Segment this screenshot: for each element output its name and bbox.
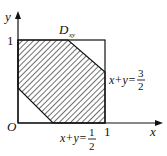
y-axis-arrow-icon [15, 11, 21, 19]
x-tick-one: 1 [104, 124, 111, 139]
diagram-canvas: y x O 1 1 D xy x+y= 3 2 x+y= 1 2 [0, 0, 167, 156]
x-axis-arrow-icon [155, 120, 163, 126]
y-tick-one: 1 [7, 33, 14, 48]
y-axis-label: y [3, 9, 11, 24]
region-label: D [58, 22, 69, 37]
origin-label: O [7, 119, 17, 134]
x-axis-label: x [149, 124, 156, 139]
region-label-subscript: xy [68, 31, 76, 39]
line-label-lower: x+y= [59, 131, 87, 145]
hatched-region [18, 40, 105, 123]
line-label-lower-num: 1 [89, 126, 95, 138]
line-label-upper-den: 2 [138, 80, 144, 92]
line-label-lower-den: 2 [89, 140, 95, 152]
line-label-upper: x+y= [108, 73, 136, 87]
line-label-upper-num: 3 [138, 67, 144, 79]
